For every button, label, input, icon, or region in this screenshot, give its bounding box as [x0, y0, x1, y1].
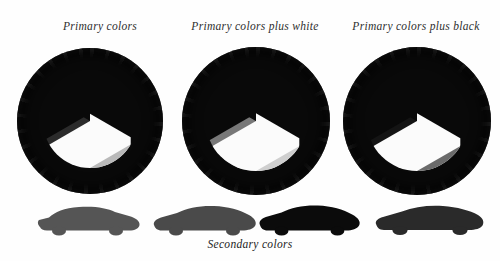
car-icon — [374, 203, 486, 239]
figure-caption-secondary-colors: Secondary colors — [208, 238, 293, 250]
wheel-heading-primary-plus-white: Primary colors plus white — [191, 20, 318, 32]
wheel-heading-primary: Primary colors — [63, 20, 137, 32]
color-wheel-hub — [367, 71, 467, 171]
color-wheel-primary — [17, 48, 163, 194]
color-wheel-primary-plus-white — [182, 47, 330, 195]
car-icon — [36, 203, 142, 239]
car-silhouette-3 — [258, 203, 362, 239]
color-wheel-primary-plus-black — [343, 47, 491, 195]
color-wheel-hub — [206, 71, 306, 171]
car-icon — [258, 203, 362, 239]
car-silhouette-4 — [374, 203, 486, 239]
wheel-heading-primary-plus-black: Primary colors plus black — [352, 20, 479, 32]
color-wheel-hub — [43, 74, 137, 168]
figure-page: Primary colors Primary colors plus white… — [0, 0, 500, 261]
car-silhouette-2 — [152, 203, 258, 239]
car-icon — [152, 203, 258, 239]
car-silhouette-1 — [36, 203, 142, 239]
